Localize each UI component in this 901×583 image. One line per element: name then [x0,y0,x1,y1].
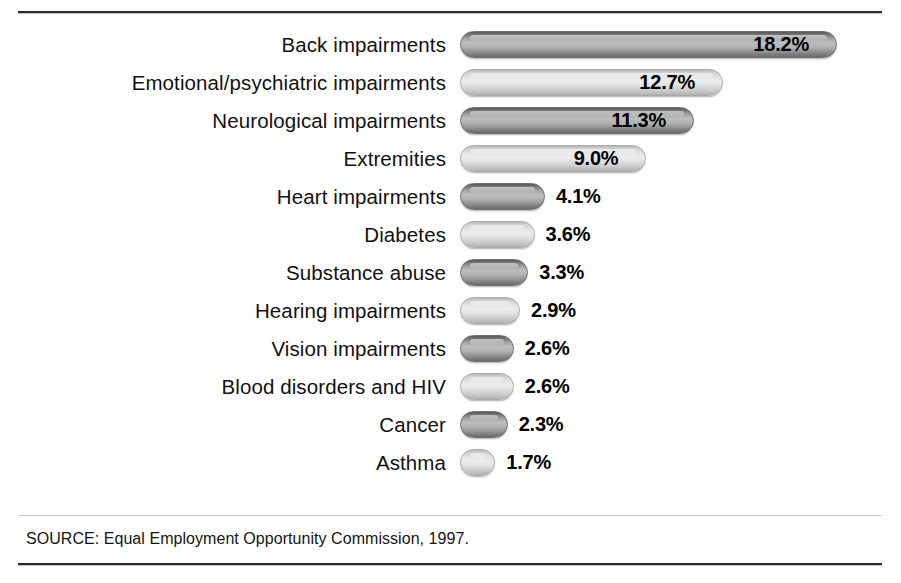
chart-bar-row: Heart impairments4.1% [0,178,901,216]
bar-value-label: 2.9% [531,297,576,324]
chart-figure: Back impairments18.2%Emotional/psychiatr… [0,0,901,583]
bar-category-label: Substance abuse [0,263,446,284]
bar-value-label: 1.7% [506,449,551,476]
bar-track: 2.6% [460,368,901,406]
bar-track: 3.3% [460,254,901,292]
chart-bar-row: Blood disorders and HIV2.6% [0,368,901,406]
chart-bar-row: Hearing impairments2.9% [0,292,901,330]
bar-category-label: Vision impairments [0,339,446,360]
bar [460,183,545,210]
bar-value-label: 2.6% [525,335,570,362]
chart-bar-row: Asthma1.7% [0,444,901,482]
source-divider-rule [18,515,882,516]
bar-value-label: 2.3% [519,411,564,438]
bar [460,297,520,324]
bar [460,259,528,286]
bar-value-label: 18.2% [460,31,809,58]
chart-bar-row: Back impairments18.2% [0,26,901,64]
bar-track: 2.9% [460,292,901,330]
bar-value-label: 11.3% [460,107,666,134]
bar-category-label: Cancer [0,415,446,436]
bar-value-label: 12.7% [460,69,695,96]
bar-category-label: Heart impairments [0,187,446,208]
bar-track: 1.7% [460,444,901,482]
bar-track: 4.1% [460,178,901,216]
bar-track: 12.7% [460,64,901,102]
bar-category-label: Back impairments [0,35,446,56]
bar-category-label: Extremities [0,149,446,170]
chart-bar-row: Extremities9.0% [0,140,901,178]
source-note: SOURCE: Equal Employment Opportunity Com… [26,530,469,548]
chart-bar-row: Diabetes3.6% [0,216,901,254]
bar-track: 3.6% [460,216,901,254]
bar-category-label: Blood disorders and HIV [0,377,446,398]
bar-track: 9.0% [460,140,901,178]
bar-category-label: Asthma [0,453,446,474]
top-rule [18,11,882,14]
bar-track: 11.3% [460,102,901,140]
chart-bar-row: Substance abuse3.3% [0,254,901,292]
chart-bar-row: Emotional/psychiatric impairments12.7% [0,64,901,102]
bar-value-label: 9.0% [460,145,618,172]
bar-track: 2.3% [460,406,901,444]
bar [460,335,514,362]
bar [460,449,495,476]
bar-category-label: Hearing impairments [0,301,446,322]
bottom-rule [18,563,882,566]
chart-bar-row: Vision impairments2.6% [0,330,901,368]
chart-bar-row: Neurological impairments11.3% [0,102,901,140]
bar-category-label: Diabetes [0,225,446,246]
bar-value-label: 3.3% [539,259,584,286]
bar-value-label: 2.6% [525,373,570,400]
bar-value-label: 3.6% [546,221,591,248]
bar [460,411,508,438]
bar [460,373,514,400]
bar-category-label: Neurological impairments [0,111,446,132]
bar-value-label: 4.1% [556,183,601,210]
bar-track: 18.2% [460,26,901,64]
bar-track: 2.6% [460,330,901,368]
bar-category-label: Emotional/psychiatric impairments [0,73,446,94]
chart-bar-row: Cancer2.3% [0,406,901,444]
bar-chart-plot: Back impairments18.2%Emotional/psychiatr… [0,26,901,482]
bar [460,221,535,248]
